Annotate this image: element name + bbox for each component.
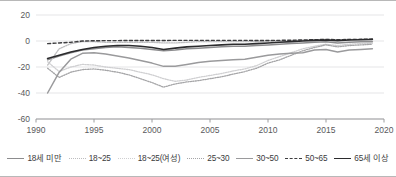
legend-swatch-icon: [285, 158, 302, 159]
x-axis-tick-label: 1995: [85, 125, 104, 135]
legend-item[interactable]: 50~65: [285, 155, 327, 163]
x-axis-tick-label: 1990: [27, 125, 46, 135]
legend-item-label: 18~25(여성): [138, 155, 181, 163]
chart-legend: 18세 미만18~2518~25(여성)25~3030~5050~6565세 이…: [0, 150, 396, 168]
legend-item-label: 65세 이상: [354, 155, 388, 163]
legend-item[interactable]: 30~50: [236, 155, 278, 163]
legend-swatch-icon: [236, 158, 253, 159]
x-axis-tick-label: 2000: [143, 125, 162, 135]
legend-item[interactable]: 18~25: [69, 155, 111, 163]
series-line-4: [48, 49, 373, 93]
x-axis-tick-label: 2005: [201, 125, 220, 135]
y-axis-tick-label: 0: [25, 36, 30, 46]
legend-swatch-icon: [118, 158, 135, 159]
line-chart-svg: 200-20-40-601990199520002005201020152020: [0, 5, 396, 145]
legend-item-label: 50~65: [305, 155, 327, 163]
y-axis-tick-label: -40: [18, 88, 31, 98]
legend-item[interactable]: 18~25(여성): [118, 155, 181, 163]
legend-swatch-icon: [187, 158, 204, 159]
y-axis-tick-label: -20: [18, 62, 31, 72]
legend-item-label: 30~50: [256, 155, 278, 163]
legend-swatch-icon: [334, 158, 351, 159]
y-axis-tick-label: 20: [21, 10, 31, 20]
x-axis-tick-label: 2015: [317, 125, 336, 135]
legend-item[interactable]: 65세 이상: [334, 155, 388, 163]
y-axis-tick-label: -60: [18, 114, 31, 124]
x-axis-tick-label: 2010: [259, 125, 278, 135]
legend-swatch-icon: [69, 158, 86, 159]
legend-item[interactable]: 25~30: [187, 155, 229, 163]
chart-plot-area: 200-20-40-601990199520002005201020152020: [0, 5, 396, 145]
legend-swatch-icon: [7, 158, 24, 159]
legend-item[interactable]: 18세 미만: [7, 155, 61, 163]
legend-item-label: 18~25: [89, 155, 111, 163]
chart-figure: 200-20-40-601990199520002005201020152020…: [0, 0, 396, 177]
x-axis-tick-label: 2020: [375, 125, 394, 135]
legend-item-label: 25~30: [207, 155, 229, 163]
legend-item-label: 18세 미만: [27, 155, 61, 163]
